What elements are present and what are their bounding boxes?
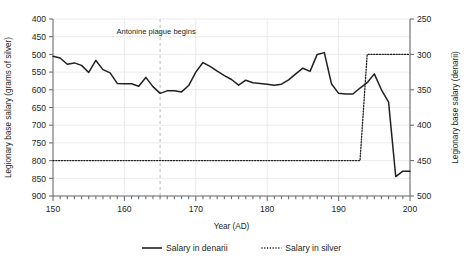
series-line-salary-in-denarii	[53, 53, 410, 177]
chart-container: Antonine plague begins900850800750700650…	[0, 0, 470, 267]
y-axis-left-tick-label: 700	[32, 120, 47, 130]
x-axis-tick-label: 200	[403, 204, 418, 214]
x-axis-tick-label: 150	[46, 204, 61, 214]
y-axis-left-tick-label: 450	[32, 32, 47, 42]
x-axis-tick-label: 180	[260, 204, 275, 214]
salary-line-chart: Antonine plague begins900850800750700650…	[0, 0, 470, 267]
legend-label: Salary in silver	[285, 243, 341, 253]
y-axis-right-tick-label: 450	[417, 156, 432, 166]
y-axis-left-tick-label: 900	[32, 191, 47, 201]
y-axis-left-tick-label: 650	[32, 103, 47, 113]
y-axis-left-tick-label: 600	[32, 85, 47, 95]
y-axis-left-tick-label: 500	[32, 50, 47, 60]
x-axis-tick-label: 170	[189, 204, 204, 214]
y-axis-left-tick-label: 750	[32, 138, 47, 148]
x-axis-tick-label: 160	[117, 204, 132, 214]
x-axis-title: Year (AD)	[214, 222, 250, 231]
y-axis-left-tick-label: 800	[32, 156, 47, 166]
y-axis-right-tick-label: 400	[417, 120, 432, 130]
x-axis-tick-label: 190	[331, 204, 346, 214]
y-axis-left-title: Legionary base salary (grams of silver)	[4, 37, 13, 178]
y-axis-right-tick-label: 300	[417, 50, 432, 60]
y-axis-left-tick-label: 400	[32, 14, 47, 24]
annotation-label: Antonine plague begins	[116, 27, 196, 36]
y-axis-right-title: Legionary base salary (denarii)	[451, 51, 460, 164]
legend-label: Salary in denarii	[166, 243, 228, 253]
y-axis-right-tick-label: 350	[417, 85, 432, 95]
y-axis-left-tick-label: 850	[32, 174, 47, 184]
y-axis-right-tick-label: 250	[417, 14, 432, 24]
y-axis-right-tick-label: 500	[417, 191, 432, 201]
y-axis-left-tick-label: 550	[32, 67, 47, 77]
